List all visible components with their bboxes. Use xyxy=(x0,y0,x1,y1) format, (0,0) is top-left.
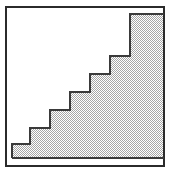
staircase-figure-svg xyxy=(0,0,181,181)
staircase-figure-container: Staircase step region figure A square ou… xyxy=(0,0,181,181)
